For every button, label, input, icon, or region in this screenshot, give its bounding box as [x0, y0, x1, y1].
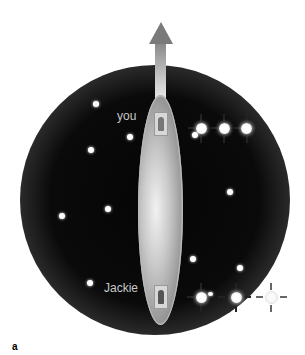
tick [246, 114, 248, 121]
tick [223, 136, 225, 143]
dash [188, 127, 195, 129]
star [190, 256, 196, 262]
dash [280, 296, 287, 298]
label-jackie: Jackie [104, 281, 138, 295]
tick [200, 305, 202, 312]
star [237, 265, 243, 271]
label-you: you [117, 109, 136, 123]
tick [200, 283, 202, 290]
star [227, 189, 233, 195]
signal-star [219, 123, 230, 134]
dash [218, 296, 225, 298]
star [87, 280, 93, 286]
signal-star [231, 292, 242, 303]
tick [200, 114, 202, 121]
star [192, 132, 198, 138]
arrow-shaft [155, 44, 166, 100]
tick [246, 136, 248, 143]
tick [235, 283, 237, 290]
star [208, 292, 213, 296]
tick [200, 136, 202, 143]
signal-star-faint [266, 292, 277, 303]
dash [187, 296, 194, 298]
star [105, 206, 111, 212]
star [93, 101, 99, 107]
star [88, 147, 94, 153]
dash [244, 296, 251, 298]
tick [235, 305, 237, 312]
dash [234, 127, 241, 129]
person-icon [158, 290, 164, 304]
star [127, 134, 133, 140]
dash [256, 296, 263, 298]
star [59, 213, 65, 219]
signal-star [196, 292, 207, 303]
tick [270, 283, 272, 290]
dash [253, 127, 260, 129]
signal-star [241, 123, 252, 134]
person-icon [158, 117, 164, 131]
top-window [154, 112, 168, 136]
up-arrow-icon [149, 22, 173, 44]
tick [270, 305, 272, 312]
panel-label: a [12, 341, 18, 352]
signal-star [196, 123, 207, 134]
bottom-window [154, 285, 168, 309]
tick [223, 114, 225, 121]
dash [211, 127, 218, 129]
